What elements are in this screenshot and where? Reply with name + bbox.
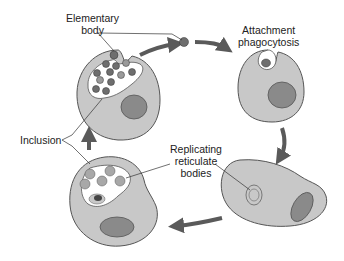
arrow-release	[140, 44, 176, 55]
arrow-attach	[195, 42, 226, 48]
label-inclusion: Inclusion	[20, 134, 61, 146]
label-attachment-phagocytosis: Attachment phagocytosis	[238, 24, 299, 48]
arrow-left	[176, 218, 222, 226]
nucleus	[268, 82, 296, 108]
nucleus	[100, 217, 134, 237]
free-elementary-body	[180, 38, 189, 47]
cell-bottom-right	[221, 160, 326, 227]
label-replicating-reticulate-bodies: Replicating reticulate bodies	[170, 143, 222, 179]
cell-top-right	[238, 50, 304, 122]
elementary-body	[262, 59, 271, 67]
elementary-body	[110, 51, 118, 59]
reticulate-body	[246, 185, 262, 205]
arrow-down	[280, 128, 284, 158]
nucleus	[121, 95, 147, 119]
cell-bottom-left	[70, 157, 158, 246]
cell-top-left	[77, 50, 160, 140]
label-elementary-body: Elementary body	[66, 12, 119, 36]
